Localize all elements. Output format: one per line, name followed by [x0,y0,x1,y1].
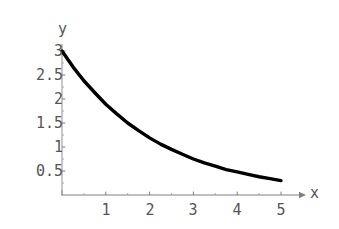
x-tick-label-2: 2 [135,203,165,218]
x-tick-label-3: 3 [178,203,208,218]
x-tick-label-5: 5 [266,203,296,218]
x-axis-label: x [310,186,319,201]
y-tick-label-3: 3 [54,44,63,59]
x-tick-label-4: 4 [222,203,252,218]
y-tick-label-2: 2 [54,92,63,107]
x-tick-label-1: 1 [91,203,121,218]
y-tick-label-1-5: 1.5 [36,116,63,131]
y-tick-label-1: 1 [54,140,63,155]
plot-figure: 3 2.5 2 1.5 1 0.5 1 2 3 4 5 y x [0,0,339,229]
y-axis-label: y [58,22,67,37]
y-tick-label-2-5: 2.5 [36,68,63,83]
x-axis [62,190,306,198]
y-tick-label-0-5: 0.5 [36,164,63,179]
data-curve [62,51,281,181]
